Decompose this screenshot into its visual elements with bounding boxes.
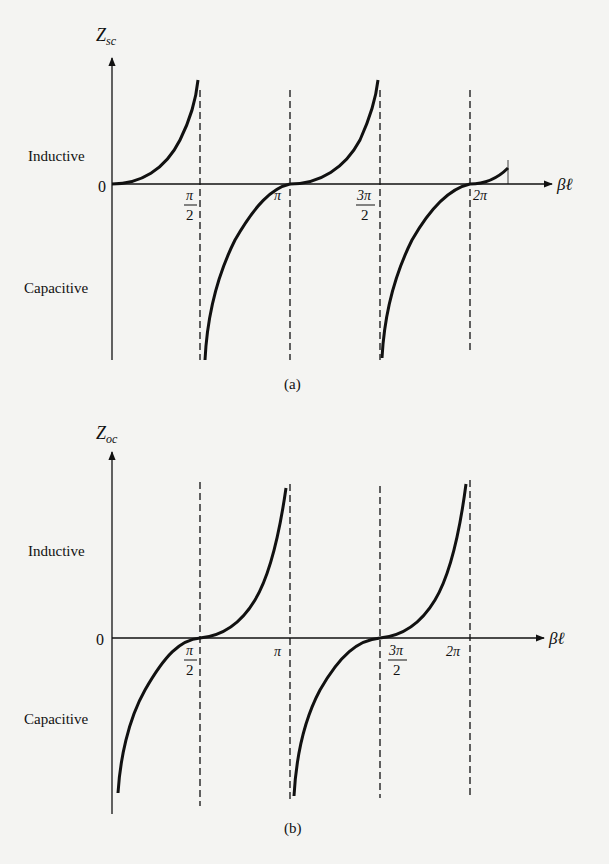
tick-pi-a: π (274, 188, 282, 203)
y-axis-label-b: Zoc (96, 423, 118, 446)
tick-pi-b: π (274, 644, 282, 659)
origin-label-a: 0 (98, 178, 106, 195)
y-axis-label-a: Zsc (96, 25, 117, 48)
capacitive-label-a: Capacitive (24, 280, 88, 296)
dashed-gridlines-a (200, 90, 470, 360)
tick-2pi-b: 2π (446, 644, 461, 659)
caption-b: (b) (284, 820, 302, 837)
tick-2pi-a: 2π (473, 188, 488, 203)
tick-pi-half-num-a: π (186, 188, 194, 203)
inductive-label-b: Inductive (28, 543, 85, 559)
tick-pi-half-den-b: 2 (186, 662, 194, 678)
tick-3pi-half-den-b: 2 (393, 662, 401, 678)
tick-3pi-half-den-a: 2 (361, 207, 369, 223)
chart-a-zsc: Zsc βℓ 0 Inductive Capacitive π 2 π 3π 2… (24, 25, 573, 393)
tick-3pi-half-num-b: 3π (388, 643, 404, 658)
caption-a: (a) (284, 376, 301, 393)
chart-b-zoc: Zoc βℓ 0 Inductive Capacitive π 2 π 3π 2… (24, 423, 565, 837)
dashed-gridlines-b (200, 480, 470, 806)
tick-pi-half-den-a: 2 (186, 207, 194, 223)
tick-3pi-half-num-a: 3π (356, 188, 372, 203)
inductive-label-a: Inductive (28, 148, 85, 164)
origin-label-b: 0 (96, 631, 104, 648)
impedance-figure: Zsc βℓ 0 Inductive Capacitive π 2 π 3π 2… (0, 0, 609, 864)
capacitive-label-b: Capacitive (24, 711, 88, 727)
tick-pi-half-num-b: π (186, 643, 194, 658)
x-axis-label-a: βℓ (556, 175, 573, 194)
zoc-curve (118, 484, 466, 796)
zsc-curve (112, 80, 508, 360)
x-axis-label-b: βℓ (548, 629, 565, 648)
